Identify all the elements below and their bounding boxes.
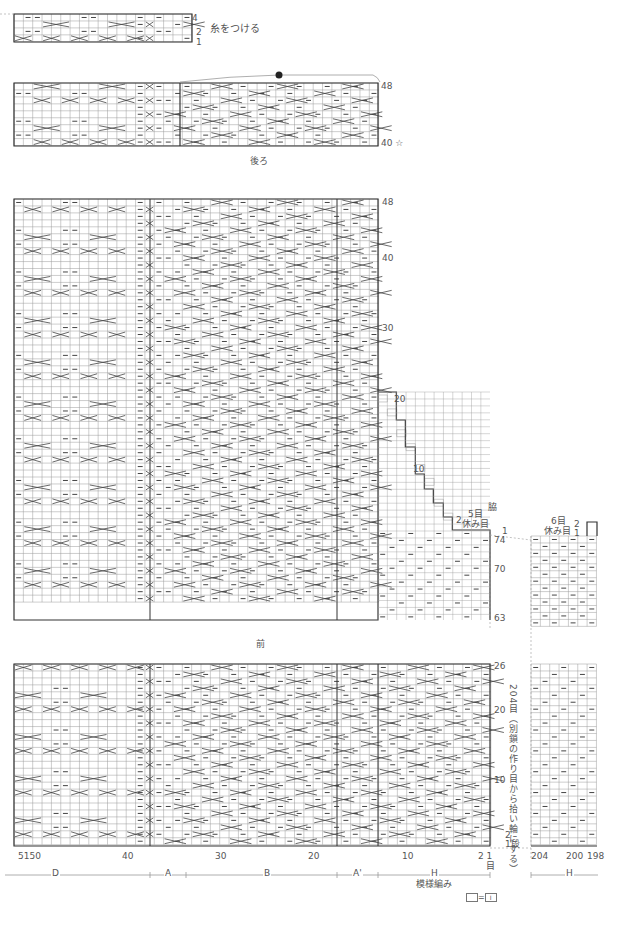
stitch-label-51-50: 5150: [18, 852, 41, 861]
lower-row-26: 26: [494, 662, 505, 671]
rest-left-count: 5目: [468, 510, 483, 519]
front-row-70: 70: [494, 565, 505, 574]
stitch-label-30: 30: [215, 852, 226, 861]
rest-right-row1: 1: [574, 529, 580, 538]
pattern-name: 模様編み: [416, 880, 452, 889]
row-label-1: 1: [196, 38, 202, 47]
pickup-note: 204目（別鎖の作り目から拾い輪にする）: [508, 684, 517, 834]
section-A: A: [164, 869, 172, 878]
front-row-40: 40: [382, 254, 393, 263]
section-A-prime: A': [352, 869, 363, 878]
rest-left-text: 休み目: [462, 520, 489, 529]
knitting-chart: [0, 0, 633, 932]
stitch-key: =I: [466, 893, 497, 902]
rest-right-count: 6目: [551, 517, 566, 526]
row-label-4: 4: [192, 14, 198, 23]
side-label: 脇: [488, 503, 497, 512]
lower-row-20: 20: [494, 706, 505, 715]
rest-left-row2: 2: [456, 516, 462, 525]
section-H-left: H: [430, 869, 439, 878]
rest-right-text: 休み目: [544, 527, 571, 536]
stitch-label-40: 40: [122, 852, 133, 861]
front-row-74: 74: [494, 536, 505, 545]
front-title: 前: [256, 640, 265, 649]
section-D: D: [51, 869, 60, 878]
stitch-label-20: 20: [308, 852, 319, 861]
row-label-2: 2: [196, 28, 202, 37]
stitch-label-204: 204: [531, 852, 548, 861]
stitch-label-2-1: 2 1: [478, 852, 492, 861]
front-row-10: 10: [413, 465, 424, 474]
stitch-unit: 目: [486, 862, 495, 871]
front-row-20: 20: [394, 395, 405, 404]
back-row-40: 40 ☆: [381, 139, 403, 148]
section-B: B: [263, 869, 271, 878]
bottom-row-1: 1段: [505, 840, 520, 849]
front-row-30: 30: [382, 324, 393, 333]
stitch-label-200: 200: [566, 852, 583, 861]
back-title: 後ろ: [250, 157, 268, 166]
back-row-48: 48: [381, 82, 392, 91]
front-row-48: 48: [382, 198, 393, 207]
attach-yarn-label: 糸をつける: [210, 24, 260, 34]
section-H-right: H: [565, 869, 574, 878]
stitch-label-10: 10: [402, 852, 413, 861]
front-row-63: 63: [494, 614, 505, 623]
stitch-label-198: 198: [587, 852, 604, 861]
lower-row-10: 10: [494, 776, 505, 785]
